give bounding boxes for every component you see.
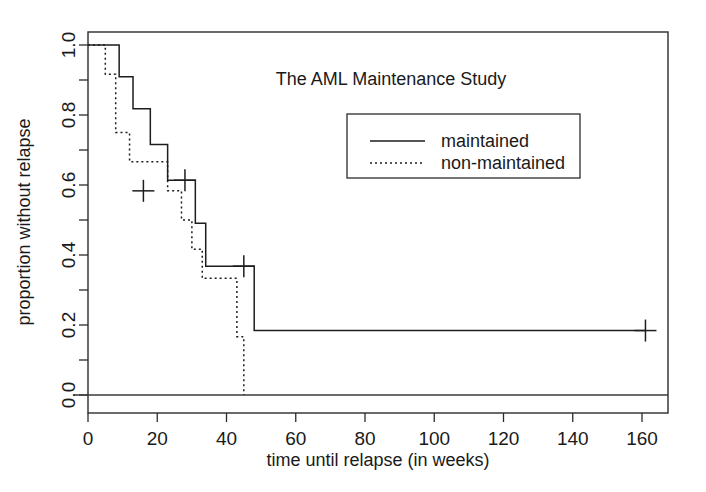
x-tick-label: 80 [354, 428, 375, 449]
kaplan-meier-chart: 0.00.20.40.60.81.0 020406080100120140160… [0, 0, 706, 492]
x-tick-label: 20 [147, 428, 168, 449]
plot-title: The AML Maintenance Study [276, 69, 506, 89]
x-tick-label: 60 [285, 428, 306, 449]
x-tick-label: 140 [557, 428, 589, 449]
legend: maintained non-maintained [347, 114, 580, 178]
y-tick-label: 0.6 [58, 172, 79, 198]
x-tick-label: 120 [488, 428, 520, 449]
legend-label-maintained: maintained [441, 131, 529, 151]
y-tick-label: 0.4 [58, 241, 79, 268]
y-tick-label: 1.0 [58, 32, 79, 58]
survival-plot-figure: 0.00.20.40.60.81.0 020406080100120140160… [0, 0, 706, 492]
x-tick-label: 40 [216, 428, 237, 449]
x-tick-label: 100 [418, 428, 450, 449]
x-tick-label: 0 [83, 428, 94, 449]
y-tick-label: 0.2 [58, 312, 79, 338]
legend-label-non-maintained: non-maintained [441, 153, 565, 173]
y-tick-label: 0.8 [58, 102, 79, 128]
x-tick-label: 160 [626, 428, 658, 449]
y-axis-title: proportion without relapse [14, 118, 34, 325]
x-axis-title: time until relapse (in weeks) [266, 450, 489, 470]
